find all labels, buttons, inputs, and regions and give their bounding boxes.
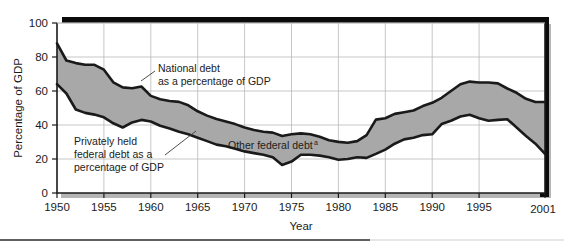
y-tick-labels: 100 80 60 40 20 0 [29, 17, 48, 199]
x-tick-label: 1990 [419, 201, 445, 213]
y-tick-label: 80 [35, 51, 48, 63]
other-federal-debt-superscript: a [314, 139, 318, 146]
y-axis-title: Percentage of GDP [12, 58, 24, 158]
x-tick-label: 2001 [530, 203, 556, 215]
x-tick-labels: 1950 1955 1960 1965 1970 1975 1980 1985 … [44, 201, 556, 215]
y-tick-label: 20 [35, 153, 48, 165]
x-tick-label: 1980 [326, 201, 352, 213]
x-tick-label: 1970 [232, 201, 258, 213]
y-tick-label: 0 [42, 187, 48, 199]
privately-held-annotation-line2: federal debt as a [74, 148, 152, 160]
x-axis-title: Year [289, 220, 312, 232]
national-debt-annotation-line1: National debt [158, 62, 220, 74]
national-debt-annotation-line2: as a percentage of GDP [158, 75, 271, 87]
x-tick-label: 1995 [466, 201, 492, 213]
x-tick-label: 1985 [373, 201, 399, 213]
debt-area-chart: 100 80 60 40 20 0 1950 1955 1960 1965 19… [0, 0, 564, 246]
x-tick-label: 1950 [44, 201, 70, 213]
x-tick-label: 1965 [185, 201, 211, 213]
y-tick-label: 100 [29, 17, 48, 29]
figure-container: 100 80 60 40 20 0 1950 1955 1960 1965 19… [0, 0, 564, 246]
other-federal-debt-annotation: Other federal debt a [228, 139, 318, 151]
y-tick-label: 60 [35, 85, 48, 97]
other-federal-debt-label: Other federal debt [228, 139, 313, 151]
x-tick-label: 1975 [279, 201, 305, 213]
x-tick-label: 1960 [138, 201, 164, 213]
y-tick-label: 40 [35, 119, 48, 131]
privately-held-annotation-line3: percentage of GDP [74, 161, 164, 173]
privately-held-annotation-line1: Privately held [74, 135, 137, 147]
x-tick-label: 1955 [91, 201, 117, 213]
